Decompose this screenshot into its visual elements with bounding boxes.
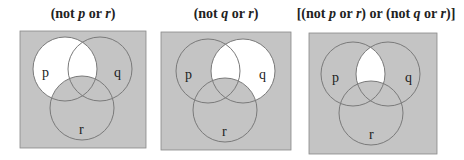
label-q-2: q	[259, 67, 266, 83]
label-p-2: p	[185, 67, 192, 83]
label-q-3: q	[405, 70, 412, 86]
label-r-3: r	[369, 127, 374, 143]
label-p-3: p	[332, 70, 339, 86]
label-r-1: r	[79, 122, 84, 138]
label-r-2: r	[222, 124, 227, 140]
label-q-1: q	[114, 65, 121, 81]
label-p-1: p	[42, 65, 49, 81]
venn-diagrams	[0, 0, 464, 160]
